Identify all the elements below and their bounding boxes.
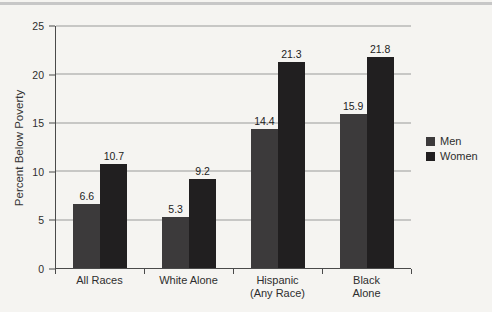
bar-men: 6.6: [73, 204, 100, 268]
bar-value-label: 14.4: [254, 115, 274, 127]
bar-value-label: 9.2: [195, 165, 210, 177]
bar-value-label: 15.9: [343, 100, 363, 112]
category-label: Hispanic (Any Race): [250, 274, 305, 299]
y-tick-label-0: 0: [38, 263, 44, 275]
y-tick-mark: [49, 26, 55, 27]
category-label: All Races: [76, 274, 122, 287]
legend-label: Men: [440, 135, 461, 147]
legend-label: Women: [440, 150, 478, 162]
y-tick-label-10: 10: [32, 166, 44, 178]
legend-swatch-icon: [426, 152, 435, 161]
bar-group: 6.610.7: [56, 26, 145, 268]
y-tick-label-5: 5: [38, 214, 44, 226]
legend-item-men: Men: [426, 135, 478, 147]
x-axis: All RacesWhite AloneHispanic (Any Race)B…: [55, 269, 411, 303]
y-tick-mark: [49, 123, 55, 124]
bar-women: 21.3: [278, 62, 305, 268]
y-tick-label-25: 25: [32, 20, 44, 32]
y-tick-label-20: 20: [32, 69, 44, 81]
category-label: White Alone: [159, 274, 218, 287]
top-rule-divider: [0, 2, 492, 5]
y-tick-mark: [49, 74, 55, 75]
legend: MenWomen: [426, 135, 478, 162]
bar-men: 14.4: [251, 129, 278, 268]
y-tick-mark: [49, 171, 55, 172]
x-tick-mark: [411, 269, 412, 274]
category-label: Black Alone: [344, 274, 389, 299]
x-tick-mark: [55, 269, 56, 274]
bar-groups: 6.610.75.39.214.421.315.921.8: [56, 26, 411, 268]
y-axis: 0510152025: [0, 26, 55, 269]
bar-group: 14.421.3: [234, 26, 323, 268]
bar-value-label: 21.8: [370, 43, 390, 55]
legend-swatch-icon: [426, 137, 435, 146]
bar-men: 15.9: [340, 114, 367, 268]
bar-value-label: 5.3: [168, 203, 183, 215]
bar-value-label: 21.3: [281, 48, 301, 60]
legend-item-women: Women: [426, 150, 478, 162]
plot-area: 6.610.75.39.214.421.315.921.8: [55, 26, 411, 269]
bar-group: 15.921.8: [322, 26, 411, 268]
bar-women: 9.2: [189, 179, 216, 268]
bar-women: 21.8: [367, 57, 394, 268]
y-tick-mark: [49, 220, 55, 221]
bar-value-label: 6.6: [80, 190, 95, 202]
figure-bar-chart: Percent Below Poverty 6.610.75.39.214.42…: [0, 0, 492, 312]
bar-women: 10.7: [100, 164, 127, 268]
y-tick-label-15: 15: [32, 117, 44, 129]
bar-men: 5.3: [162, 217, 189, 268]
bar-value-label: 10.7: [104, 150, 124, 162]
x-tick-mark: [322, 269, 323, 274]
x-tick-mark: [233, 269, 234, 274]
bar-group: 5.39.2: [145, 26, 234, 268]
x-tick-mark: [144, 269, 145, 274]
